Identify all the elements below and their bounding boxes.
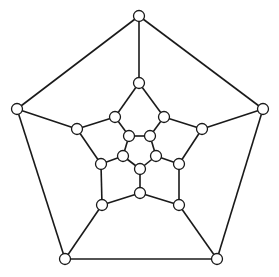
edge-O1-A1 — [202, 109, 263, 129]
edge-A3-B3 — [101, 164, 102, 205]
edge-O2-O0 — [17, 16, 139, 109]
edge-O4-A2 — [179, 205, 217, 259]
node-B2 — [135, 188, 146, 199]
node-A1 — [197, 124, 208, 135]
node-O0 — [134, 11, 145, 22]
node-B3 — [96, 159, 107, 170]
node-I1 — [151, 151, 162, 162]
edge-A1-B1 — [179, 129, 202, 164]
node-B0 — [159, 112, 170, 123]
edge-O2-A4 — [17, 109, 77, 129]
node-A3 — [97, 200, 108, 211]
node-O1 — [258, 104, 269, 115]
edge-B3-A4 — [77, 129, 101, 164]
graph-nodes — [12, 11, 269, 265]
node-O4 — [212, 254, 223, 265]
node-A4 — [72, 124, 83, 135]
node-I2 — [135, 164, 146, 175]
edge-O3-O2 — [17, 109, 65, 259]
edge-O1-O4 — [217, 109, 263, 259]
node-B4 — [110, 112, 121, 123]
node-A2 — [174, 200, 185, 211]
node-O3 — [60, 254, 71, 265]
node-I3 — [118, 151, 129, 162]
node-A0 — [134, 78, 145, 89]
node-I0 — [145, 131, 156, 142]
edge-O0-O1 — [139, 16, 263, 109]
node-O2 — [12, 104, 23, 115]
edge-A0-B0 — [139, 83, 164, 117]
edge-B4-A0 — [115, 83, 139, 117]
node-I4 — [124, 131, 135, 142]
node-B1 — [174, 159, 185, 170]
dodecahedron-graph — [0, 0, 279, 277]
graph-edges — [17, 16, 263, 259]
edge-O3-A3 — [65, 205, 102, 259]
